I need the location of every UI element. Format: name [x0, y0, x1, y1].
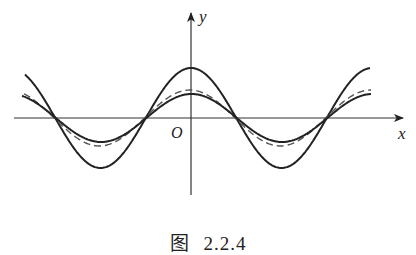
y-axis-label: y: [197, 7, 207, 26]
caption-prefix: 图: [170, 233, 190, 254]
caption-number: 2.2.4: [204, 233, 247, 254]
x-axis-label: x: [397, 124, 406, 143]
figure-caption: 图2.2.4: [0, 228, 416, 255]
origin-label: O: [171, 124, 183, 141]
